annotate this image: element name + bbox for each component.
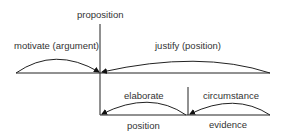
- circumstance-arc: [190, 103, 270, 115]
- elaborate-arc: [102, 102, 186, 115]
- relation-label-circumstance: circumstance: [203, 91, 259, 101]
- justify-arc: [102, 61, 270, 73]
- node-label-position: position: [127, 121, 160, 131]
- relation-label-motivate: motivate (argument): [14, 41, 99, 51]
- relation-label-justify: justify (position): [155, 41, 221, 51]
- rst-diagram-lines: [0, 0, 283, 136]
- node-label-evidence: evidence: [209, 120, 247, 130]
- node-label-proposition: proposition: [77, 10, 123, 20]
- motivate-arc: [16, 59, 99, 73]
- relation-label-elaborate: elaborate: [124, 91, 164, 101]
